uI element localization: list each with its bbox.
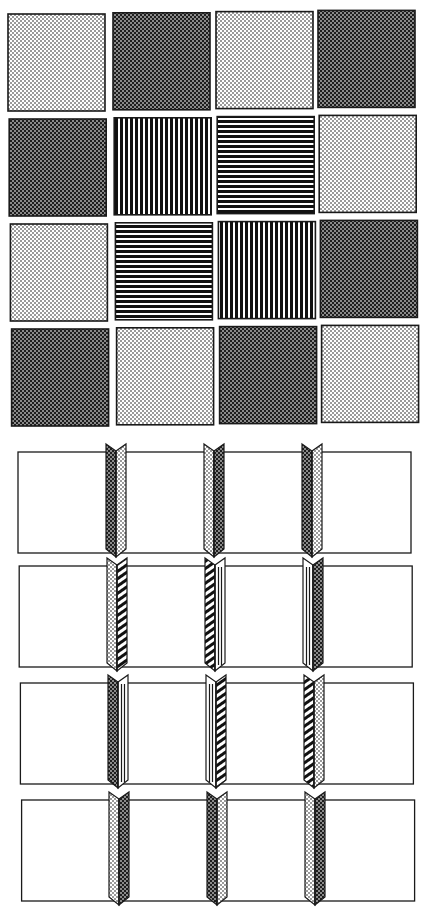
grid-square-light bbox=[322, 325, 419, 422]
grid-square-dark bbox=[9, 119, 106, 216]
fold-strips bbox=[18, 444, 415, 905]
strip-1 bbox=[18, 444, 411, 557]
fold-right-face bbox=[315, 792, 325, 905]
grid-square-light bbox=[10, 224, 107, 321]
fold-right-face bbox=[314, 675, 324, 788]
fold-ridge bbox=[302, 444, 322, 557]
grid-square-dark bbox=[320, 220, 417, 317]
pattern-grid bbox=[8, 10, 419, 426]
fold-ridge bbox=[109, 792, 129, 905]
fold-left-face bbox=[304, 675, 314, 788]
fold-ridge bbox=[107, 558, 127, 671]
fold-left-face bbox=[206, 675, 216, 788]
grid-square-hstripes bbox=[115, 223, 212, 320]
fold-ridge bbox=[206, 675, 226, 788]
fold-ridge bbox=[305, 792, 325, 905]
fold-left-face bbox=[207, 792, 217, 905]
fold-right-face bbox=[216, 675, 226, 788]
fold-ridge bbox=[108, 675, 128, 788]
fold-right-face bbox=[116, 444, 126, 557]
strip-2 bbox=[19, 558, 412, 671]
grid-square-light bbox=[319, 115, 416, 212]
fold-left-face bbox=[106, 444, 116, 557]
strip-3 bbox=[20, 675, 413, 788]
fold-right-face bbox=[214, 444, 224, 557]
fold-right-face bbox=[117, 558, 127, 671]
grid-square-light bbox=[117, 328, 214, 425]
diagram-figure bbox=[0, 0, 425, 916]
fold-ridge bbox=[304, 675, 324, 788]
grid-square-light bbox=[8, 14, 105, 111]
fold-left-face bbox=[205, 558, 215, 671]
grid-square-light bbox=[216, 12, 313, 109]
fold-left-face bbox=[303, 558, 313, 671]
grid-square-dark bbox=[220, 327, 317, 424]
strip-4 bbox=[22, 792, 415, 905]
grid-square-dark bbox=[113, 13, 210, 110]
fold-ridge bbox=[207, 792, 227, 905]
fold-right-face bbox=[215, 558, 225, 671]
fold-right-face bbox=[119, 792, 129, 905]
fold-left-face bbox=[107, 558, 117, 671]
fold-left-face bbox=[109, 792, 119, 905]
fold-left-face bbox=[108, 675, 118, 788]
diagram-canvas bbox=[0, 0, 425, 916]
fold-ridge bbox=[204, 444, 224, 557]
grid-square-dark bbox=[318, 10, 415, 107]
grid-square-vstripes bbox=[218, 222, 315, 319]
fold-ridge bbox=[106, 444, 126, 557]
grid-square-hstripes bbox=[217, 117, 314, 214]
grid-square-dark bbox=[12, 329, 109, 426]
fold-right-face bbox=[313, 558, 323, 671]
fold-right-face bbox=[312, 444, 322, 557]
grid-square-vstripes bbox=[114, 118, 211, 215]
fold-ridge bbox=[303, 558, 323, 671]
fold-left-face bbox=[305, 792, 315, 905]
fold-left-face bbox=[204, 444, 214, 557]
fold-ridge bbox=[205, 558, 225, 671]
fold-right-face bbox=[217, 792, 227, 905]
fold-left-face bbox=[302, 444, 312, 557]
fold-right-face bbox=[118, 675, 128, 788]
